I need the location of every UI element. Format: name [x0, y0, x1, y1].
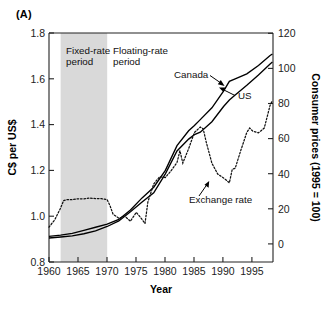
left-tick-label: 1.0 — [30, 210, 45, 222]
right-tick-label: 20 — [278, 203, 290, 215]
figure-panel-a: (A) — [0, 0, 326, 311]
x-tick-label: 1970 — [95, 265, 119, 277]
annotation-floating-rate-line2: period — [113, 56, 140, 67]
left-tick-labels: 0.8 1.0 1.2 1.4 1.6 1.8 — [30, 27, 45, 268]
left-tick-label: 1.4 — [30, 118, 45, 130]
x-tick-label: 1975 — [124, 265, 148, 277]
right-tick-label: 120 — [278, 27, 296, 39]
right-tick-labels: 0 20 40 60 80 100 120 — [278, 27, 296, 250]
right-tick-label: 80 — [278, 97, 290, 109]
chart-canvas: 0.8 1.0 1.2 1.4 1.6 1.8 0 20 40 60 80 10… — [0, 0, 326, 311]
annotation-canada-label: Canada — [174, 69, 209, 80]
annotation-us-label: US — [238, 90, 252, 101]
right-tick-label: 0 — [278, 238, 284, 250]
annotation-canada-arrow — [210, 76, 225, 87]
left-axis-title: C$ per US$ — [6, 119, 18, 175]
right-tick-label: 100 — [278, 62, 296, 74]
annotation-exchange-rate-label: Exchange rate — [189, 194, 253, 205]
left-tick-label: 1.8 — [30, 27, 45, 39]
x-tick-label: 1995 — [240, 265, 264, 277]
x-tick-label: 1965 — [66, 265, 90, 277]
x-tick-label: 1960 — [37, 265, 61, 277]
right-axis-title: Consumer prices (1995 = 100) — [310, 73, 322, 222]
fixed-rate-period-band — [61, 33, 108, 262]
x-tick-label: 1990 — [211, 265, 235, 277]
left-tick-label: 1.2 — [30, 164, 45, 176]
annotation-fixed-rate-line2: period — [66, 56, 93, 67]
right-tick-label: 60 — [278, 132, 290, 144]
x-tick-label: 1980 — [153, 265, 177, 277]
left-axis-ticks — [49, 33, 54, 262]
annotation-floating-rate-line1: Floating-rate — [113, 45, 169, 56]
right-tick-label: 40 — [278, 168, 290, 180]
bottom-tick-labels: 1960 1965 1970 1975 1980 1985 1990 1995 — [37, 265, 263, 277]
x-tick-label: 1985 — [182, 265, 206, 277]
left-tick-label: 1.6 — [30, 73, 45, 85]
x-axis-title: Year — [150, 283, 172, 295]
annotation-fixed-rate-line1: Fixed-rate — [66, 45, 111, 56]
